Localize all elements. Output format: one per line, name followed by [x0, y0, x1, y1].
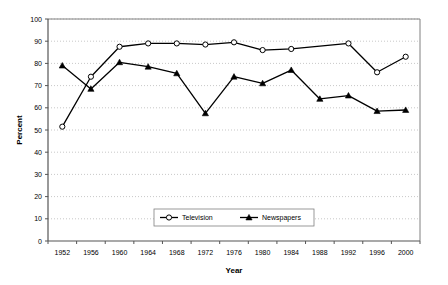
data-point-marker: [146, 41, 151, 46]
data-point-marker: [60, 124, 65, 129]
x-tick-label: 1956: [83, 249, 99, 256]
data-point-marker: [203, 42, 208, 47]
legend-label-television: Television: [182, 214, 213, 221]
y-tick-label: 70: [34, 82, 42, 89]
y-axis-title: Percent: [15, 115, 24, 145]
x-tick-label: 1996: [369, 249, 385, 256]
line-chart: 0102030405060708090100 19521956196019641…: [0, 0, 448, 285]
x-tick-label: 1960: [112, 249, 128, 256]
x-tick-label: 1992: [341, 249, 357, 256]
x-tick-label: 1972: [198, 249, 214, 256]
y-tick-label: 40: [34, 149, 42, 156]
y-tick-label: 20: [34, 193, 42, 200]
data-point-marker: [260, 47, 265, 52]
y-tick-label: 10: [34, 215, 42, 222]
y-tick-label: 50: [34, 127, 42, 134]
data-point-marker: [117, 44, 122, 49]
y-tick-label: 0: [38, 238, 42, 245]
data-point-marker: [289, 46, 294, 51]
y-tick-label: 80: [34, 60, 42, 67]
x-tick-label: 1964: [140, 249, 156, 256]
y-tick-label: 30: [34, 171, 42, 178]
x-tick-label: 1980: [255, 249, 271, 256]
data-point-marker: [346, 41, 351, 46]
y-tick-label: 100: [30, 16, 42, 23]
y-tick-label: 90: [34, 38, 42, 45]
x-tick-label: 1976: [226, 249, 242, 256]
x-tick-label: 1988: [312, 249, 328, 256]
data-point-marker: [374, 70, 379, 75]
data-point-marker: [88, 74, 93, 79]
x-tick-label: 2000: [398, 249, 414, 256]
legend-marker-television: [166, 215, 171, 220]
data-point-marker: [231, 40, 236, 45]
y-tick-label: 60: [34, 104, 42, 111]
x-tick-label: 1968: [169, 249, 185, 256]
x-axis-title: Year: [226, 266, 243, 275]
x-tick-label: 1984: [283, 249, 299, 256]
chart-legend: TelevisionNewspapers: [154, 209, 314, 226]
data-point-marker: [174, 41, 179, 46]
x-tick-label: 1952: [55, 249, 71, 256]
legend-label-newspapers: Newspapers: [262, 214, 301, 222]
data-point-marker: [403, 54, 408, 59]
chart-container: 0102030405060708090100 19521956196019641…: [0, 0, 448, 285]
